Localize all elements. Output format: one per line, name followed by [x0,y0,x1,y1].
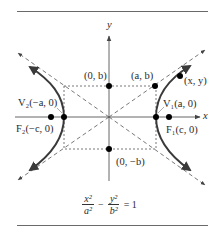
minus-sign: − [98,199,104,210]
hyperbola-equation: x² a² − y² b² = 1 [82,193,137,216]
point-xy [177,73,183,79]
point-f2 [48,114,54,120]
equation-rhs: = 1 [124,199,137,210]
point-v2 [61,114,67,120]
fraction-x: x² a² [82,193,94,216]
label-v1: V₁(a, 0) [163,99,196,110]
label-b-top: (0, b) [84,71,107,82]
label-ab: (a, b) [131,71,153,82]
point-v1 [153,114,159,120]
point-ab [152,83,158,89]
x-axis-label: x [203,111,208,122]
point-b-bottom [106,146,112,152]
fraction-y: y² b² [108,193,120,216]
label-f1: F₁(c, 0) [166,125,198,136]
label-xy: (x, y) [184,76,207,87]
point-f1 [166,114,172,120]
label-v2: V₂(−a, 0) [18,98,57,109]
hyperbola-left-branch [30,67,64,170]
label-f2: F₂(−c, 0) [16,124,54,135]
label-b-bottom: (0, −b) [116,157,145,168]
point-b-top [106,83,112,89]
y-axis-label: y [107,20,112,31]
